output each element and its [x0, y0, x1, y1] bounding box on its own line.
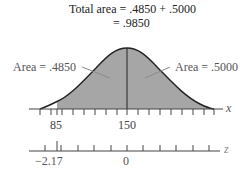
- normal-curve-diagram: [0, 0, 252, 173]
- x-tick-label-85: 85: [50, 119, 62, 131]
- shaded-area: [57, 48, 214, 109]
- z-tick-label-0: 0: [123, 155, 129, 167]
- z-axis-ticks: [45, 141, 209, 151]
- z-axis-label: z: [224, 143, 229, 155]
- x-axis-ticks: [40, 109, 214, 115]
- z-tick-label-neg-2-17: −2.17: [35, 155, 63, 167]
- x-axis-label: x: [226, 102, 231, 114]
- x-tick-label-150: 150: [118, 119, 136, 131]
